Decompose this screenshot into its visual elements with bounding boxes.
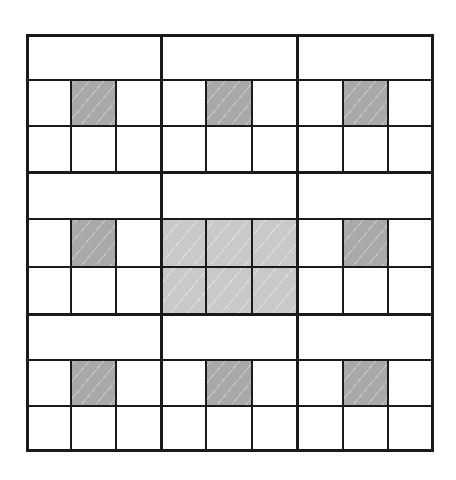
grid-line (297, 266, 434, 268)
grid-line (342, 219, 344, 314)
grid-line (342, 360, 344, 452)
shaded-cell (343, 219, 389, 267)
grid-line (161, 218, 297, 220)
shaded-cell (206, 360, 251, 406)
block-divider (160, 34, 163, 452)
grid-line (161, 359, 297, 361)
grid-line (26, 359, 161, 361)
grid-diagram (26, 34, 434, 452)
grid-line (251, 219, 253, 314)
grid-line (70, 80, 72, 172)
grid-line (205, 80, 207, 172)
grid-line (26, 266, 161, 268)
grid-line (251, 360, 253, 452)
outer-border (26, 34, 29, 452)
grid-line (297, 218, 434, 220)
grid-line (115, 360, 117, 452)
grid-line (161, 266, 297, 268)
grid-line (297, 125, 434, 127)
block-divider (296, 34, 299, 452)
outer-border (26, 34, 434, 37)
shaded-cell (343, 360, 389, 406)
outer-border (26, 449, 434, 452)
grid-line (251, 80, 253, 172)
grid-line (70, 360, 72, 452)
grid-line (342, 80, 344, 172)
grid-line (387, 219, 389, 314)
grid-line (161, 79, 297, 81)
grid-line (115, 219, 117, 314)
shaded-cell (71, 360, 116, 406)
grid-line (161, 125, 297, 127)
outer-border (431, 34, 434, 452)
grid-line (70, 219, 72, 314)
grid-line (26, 125, 161, 127)
grid-line (26, 405, 161, 407)
block-divider (26, 171, 434, 174)
grid-line (297, 359, 434, 361)
shaded-cell (343, 80, 389, 126)
grid-line (297, 405, 434, 407)
block-divider (26, 313, 434, 316)
grid-line (205, 219, 207, 314)
grid-line (387, 80, 389, 172)
grid-line (205, 360, 207, 452)
grid-line (297, 79, 434, 81)
shaded-cell (71, 80, 116, 126)
shaded-cell (206, 80, 251, 126)
grid-line (161, 405, 297, 407)
grid-line (26, 79, 161, 81)
grid-line (387, 360, 389, 452)
grid-line (115, 80, 117, 172)
grid-line (26, 218, 161, 220)
shaded-cell (71, 219, 116, 267)
